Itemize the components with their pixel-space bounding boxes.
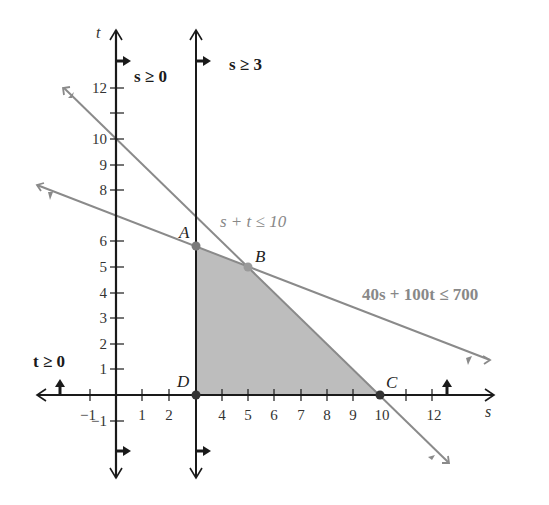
- tick-label: 2: [100, 336, 108, 352]
- tick-label: 3: [100, 310, 108, 326]
- t-ge-0-label: t ≥ 0: [33, 352, 65, 371]
- point-c-label: C: [386, 373, 398, 392]
- arrow-right-icon: [116, 446, 131, 456]
- tick-label: 8: [323, 407, 331, 423]
- tick-label: 12: [427, 407, 442, 423]
- point-a-label: A: [178, 223, 190, 242]
- tick-label: 7: [297, 407, 305, 423]
- tick-label: 8: [100, 182, 108, 198]
- point-b-label: B: [255, 247, 266, 266]
- s-ge-3-label: s ≥ 3: [229, 55, 262, 74]
- shade-arrow-icon: [48, 192, 53, 200]
- tick-label: 4: [218, 407, 226, 423]
- sum-constraint-line: [63, 87, 449, 463]
- cost-constraint-label: 40s + 100t ≤ 700: [362, 285, 478, 304]
- arrow-right-icon: [196, 446, 211, 456]
- s-axis-tick-labels: −1 1 2 4 5 6 7 8 9 10 12: [80, 407, 441, 423]
- vertex-d: [192, 391, 201, 400]
- shade-arrow-icon: [428, 455, 435, 460]
- tick-label: 6: [270, 407, 278, 423]
- arrow-right-icon: [116, 56, 131, 66]
- vertex-a: [192, 242, 201, 251]
- s-axis-label-main: s: [485, 403, 491, 420]
- tick-label: 5: [100, 259, 108, 275]
- shade-arrow-icon: [466, 356, 472, 365]
- tick-label: −1: [91, 413, 107, 429]
- t-axis-label: t: [96, 24, 101, 41]
- arrow-up-icon: [55, 379, 65, 395]
- tick-label: 9: [349, 407, 357, 423]
- arrow-right-icon: [196, 56, 211, 66]
- vertex-c: [376, 391, 385, 400]
- vertex-b: [244, 263, 253, 272]
- tick-label: 2: [165, 407, 173, 423]
- tick-label: 10: [92, 131, 107, 147]
- t-axis-tick-labels: −1 1 2 3 4 5 6 8 9 10 12: [91, 80, 107, 429]
- s-ge-0-label: s ≥ 0: [134, 67, 167, 86]
- tick-label: 10: [375, 407, 390, 423]
- tick-label: 6: [100, 233, 108, 249]
- arrow-up-icon: [442, 379, 452, 395]
- tick-label: 1: [100, 361, 108, 377]
- sum-constraint-label: s + t ≤ 10: [220, 212, 287, 231]
- tick-label: 4: [100, 285, 108, 301]
- t-axis: [110, 30, 122, 478]
- feasible-region: [196, 246, 380, 395]
- tick-label: 12: [92, 80, 107, 96]
- tick-label: 5: [244, 407, 252, 423]
- feasible-region-chart: −1 1 2 4 5 6 7 8 9 10 12 −1 1 2 3 4 5 6 …: [0, 0, 549, 505]
- tick-label: 9: [100, 157, 108, 173]
- point-d-label: D: [176, 372, 190, 391]
- tick-label: 1: [138, 407, 146, 423]
